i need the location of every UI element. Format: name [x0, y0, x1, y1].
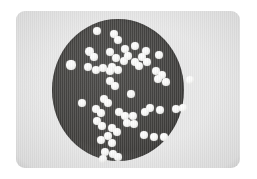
- colony: [98, 122, 106, 130]
- colony: [114, 153, 122, 161]
- figure-container: [0, 0, 257, 179]
- colony: [108, 139, 116, 147]
- colony: [113, 128, 121, 136]
- colony: [162, 78, 170, 86]
- colony: [143, 58, 151, 66]
- colony: [186, 76, 195, 85]
- colony: [130, 120, 138, 128]
- photograph: [16, 11, 240, 168]
- colony: [90, 53, 97, 60]
- colony: [154, 75, 162, 83]
- colony: [146, 104, 154, 112]
- colony: [131, 42, 139, 50]
- colony: [124, 52, 131, 59]
- colony: [106, 67, 114, 75]
- colony: [104, 99, 112, 107]
- colony: [112, 54, 120, 62]
- colony: [111, 82, 119, 90]
- colony: [78, 99, 86, 107]
- colony: [114, 66, 122, 74]
- colony: [135, 62, 143, 70]
- colony: [99, 155, 107, 163]
- colony: [179, 104, 187, 112]
- colony: [66, 60, 75, 69]
- colony: [97, 136, 105, 144]
- colony: [150, 133, 158, 141]
- colony: [160, 133, 169, 142]
- colony: [92, 66, 100, 74]
- colony: [97, 109, 105, 117]
- colony: [127, 90, 135, 98]
